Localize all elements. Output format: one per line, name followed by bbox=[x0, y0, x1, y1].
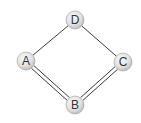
node-label: A bbox=[22, 54, 30, 68]
graph-diagram: DACB bbox=[0, 0, 141, 123]
edges bbox=[31, 26, 117, 101]
edge-b-c bbox=[81, 67, 116, 98]
edge-a-b bbox=[31, 68, 67, 100]
node-label: D bbox=[71, 13, 80, 27]
node-a: A bbox=[17, 52, 35, 70]
node-c: C bbox=[114, 53, 132, 71]
node-d: D bbox=[66, 11, 84, 29]
node-label: B bbox=[71, 98, 79, 112]
node-label: C bbox=[119, 55, 128, 69]
node-b: B bbox=[66, 96, 84, 114]
edge-a-d bbox=[33, 26, 68, 55]
nodes: DACB bbox=[17, 11, 132, 114]
edge-d-c bbox=[82, 26, 116, 56]
edge-b-c bbox=[83, 69, 118, 100]
edge-a-b bbox=[34, 66, 70, 98]
